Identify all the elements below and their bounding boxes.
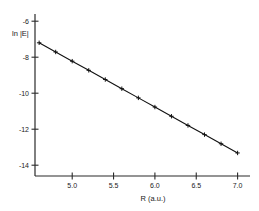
y-tick-label: -14 [19,162,29,169]
y-axis-title: ln |E| [12,29,29,38]
data-point-marker [120,87,124,91]
data-point-marker [103,77,107,81]
x-axis-title: R (a.u.) [140,194,166,203]
data-point-marker [202,132,206,136]
data-point-marker [70,59,74,63]
y-tick-label: -10 [19,90,29,97]
y-tick-label: -6 [23,18,29,25]
data-series-group [37,41,240,156]
y-tick-label: -12 [19,126,29,133]
data-point-marker [235,151,239,155]
chart-figure: -6-8-10-12-14 5.05.56.06.57.0 ln |E| R (… [0,0,259,211]
x-axis-ticks: 5.05.56.06.57.0 [67,173,242,190]
data-point-marker [87,68,91,72]
data-point-marker [219,142,223,146]
x-tick-label: 5.0 [67,182,77,189]
y-tick-label: -8 [23,54,29,61]
data-point-marker [153,105,157,109]
data-point-marker [136,96,140,100]
data-point-marker [169,114,173,118]
data-point-marker [186,123,190,127]
x-tick-label: 6.0 [150,182,160,189]
plot-canvas: -6-8-10-12-14 5.05.56.06.57.0 ln |E| R (… [0,0,259,211]
data-point-marker [37,41,41,45]
data-point-marker [53,50,57,54]
x-tick-label: 5.5 [109,182,119,189]
x-tick-label: 7.0 [233,182,243,189]
axis-spines [35,14,250,176]
x-tick-label: 6.5 [191,182,201,189]
